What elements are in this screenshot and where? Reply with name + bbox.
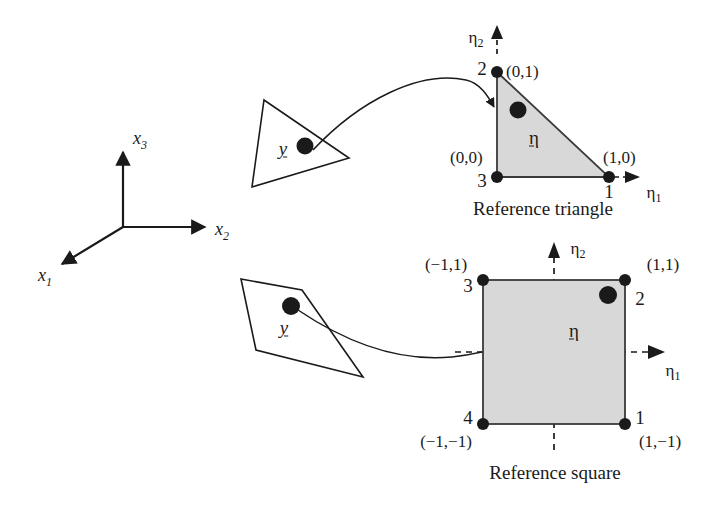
node-number-square-1: 1 [635,408,645,427]
reference-square-group [455,242,665,450]
node-coord-square-1: (1,−1) [639,433,681,450]
figure-vector-graphics [0,0,708,511]
node-number-triangle-3: 3 [477,171,487,190]
eta1-label-square: η1 [666,362,681,382]
caption-reference-square: Reference square [489,463,620,482]
node-coord-triangle-3: (0,0) [450,149,483,166]
node-coord-triangle-1: (1,0) [603,149,636,166]
reference-triangle-node-3 [491,171,503,183]
eta2-label-triangle: η2 [469,29,484,49]
axis-label-x3: x3 [133,129,147,150]
node-number-triangle-2: 2 [477,59,487,78]
eta2-axis-arrowhead-triangle [491,25,503,39]
physical-triangle-point [297,138,314,155]
eta1-axis-arrowhead-triangle [625,171,640,183]
node-coord-square-2: (1,1) [647,256,680,273]
global-axes-group [62,152,205,264]
node-coord-square-3: (−1,1) [425,256,467,273]
physical-triangle-vector-label: y [279,139,287,158]
node-number-square-4: 4 [463,408,473,427]
physical-quad-vector-label: y [280,318,288,337]
node-number-square-2: 2 [635,289,645,308]
eta1-axis-arrowhead-square [648,345,665,359]
reference-square-node-4 [477,418,489,430]
axis-label-x1: x1 [38,266,52,287]
reference-square-node-2 [619,274,631,286]
physical-quad-point [282,297,300,315]
axis-label-x2: x2 [215,220,229,241]
node-coord-square-4: (−1,−1) [420,433,472,450]
reference-square-node-3 [477,274,489,286]
mapped-point-label-square: η [569,321,579,340]
node-coord-triangle-2: (0,1) [506,63,539,80]
eta2-axis-arrowhead-square [548,242,560,258]
physical-quad-outline [241,279,363,377]
reference-square-mapped-point [599,286,617,304]
physical-quad-group [241,279,363,377]
caption-reference-triangle: Reference triangle [473,199,613,218]
reference-square-node-1 [619,418,631,430]
eta2-label-square: η2 [571,240,586,260]
node-number-square-3: 3 [463,276,473,295]
mapping-arrow-triangle [313,78,494,150]
eta1-label-triangle: η1 [647,184,662,204]
reference-triangle-mapped-point [510,102,527,119]
mapped-point-label-triangle: η [529,128,539,147]
figure-reference-elements: x2 x3 x1 y η2 η1 2 (0,1) (0,0) 3 (1,0) 1… [0,0,708,511]
x1-axis-arrow [62,227,123,264]
physical-triangle-group [252,100,349,187]
reference-triangle-node-2 [491,66,503,78]
reference-triangle-shape [497,72,609,177]
